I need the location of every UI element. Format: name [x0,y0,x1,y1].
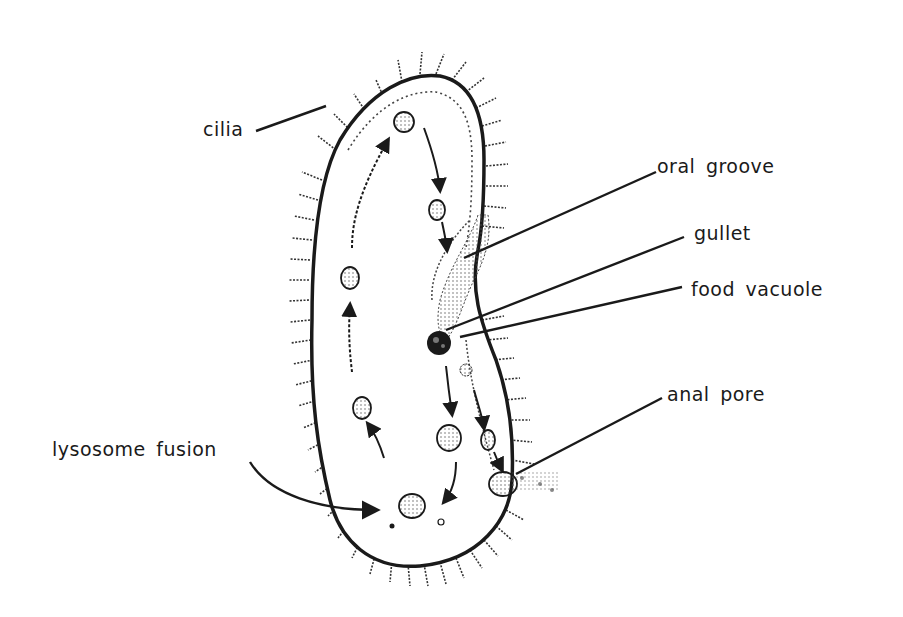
label-oral-groove: oral groove [657,157,775,176]
leader-cilia [256,106,326,131]
diagram-canvas [0,0,903,617]
label-gullet: gullet [694,224,751,243]
label-lysosome-fusion: lysosome fusion [52,440,217,459]
food-vacuole-forming [427,331,451,355]
cell-membrane [312,75,513,566]
label-cilia: cilia [203,120,243,139]
label-food-vacuole: food vacuole [691,280,823,299]
label-anal-pore: anal pore [667,385,765,404]
paramecium-diagram: cilia oral groove gullet food vacuole an… [0,0,903,617]
leader-oral-groove [464,172,656,258]
leader-anal-pore [516,398,662,474]
